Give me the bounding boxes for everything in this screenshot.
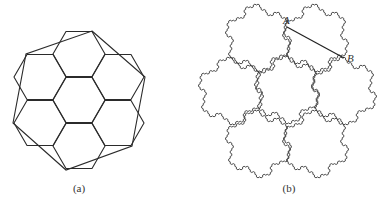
figure-a-hexagon-tiling	[13, 31, 145, 170]
figure-svg	[0, 0, 384, 202]
figure-b-caption: (b)	[269, 182, 309, 194]
hexagon-cell	[53, 31, 105, 76]
figure-a-caption: (a)	[59, 182, 99, 194]
hexagon-cell	[53, 123, 105, 168]
hexagon-cell	[92, 54, 144, 99]
fractal-tile	[312, 57, 377, 125]
figure-b-fractal-tiling	[199, 4, 377, 178]
fractal-tile	[226, 4, 291, 72]
hexagon-cell	[14, 100, 66, 145]
figure-canvas: (a) (b) A B	[0, 0, 384, 202]
point-b-label: B	[347, 52, 354, 64]
fractal-tile	[226, 110, 291, 178]
segment-ab	[287, 27, 344, 58]
point-a-label: A	[283, 14, 290, 26]
hexagon-cell	[53, 77, 105, 122]
fractal-tile	[199, 57, 264, 125]
